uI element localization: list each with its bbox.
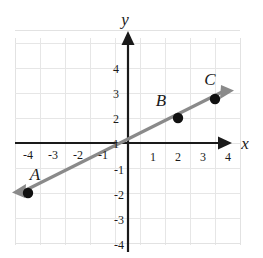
y-tick-label-4: 4 <box>113 62 119 76</box>
y-tick-label-3: 3 <box>113 87 119 101</box>
y-tick-label--1: -1 <box>114 163 124 177</box>
x-axis-arrowhead-icon <box>218 137 232 150</box>
x-tick-label--3: -3 <box>48 148 58 162</box>
x-tick-label-2: 2 <box>175 150 181 164</box>
y-tick-label--2: -2 <box>114 188 124 202</box>
x-tick-label--2: -2 <box>73 148 83 162</box>
point-a-label: A <box>29 165 41 184</box>
y-tick-label-1: 1 <box>113 137 119 151</box>
x-tick-label-1: 1 <box>150 150 156 164</box>
point-c-label: C <box>204 70 216 89</box>
x-tick-label-4: 4 <box>225 150 231 164</box>
y-axis-label: y <box>119 10 129 29</box>
x-tick-label--4: -4 <box>23 148 33 162</box>
axis-names-group: x y <box>119 10 249 153</box>
line-arrowhead-right-icon <box>220 85 234 99</box>
point-b-label: B <box>156 91 167 110</box>
data-line-group <box>12 85 234 198</box>
y-tick-label-2: 2 <box>113 112 119 126</box>
y-tick-labels-group: 4 3 2 1 -1 -2 -3 -4 <box>113 62 124 252</box>
x-tick-label--1: -1 <box>98 148 108 162</box>
point-c-marker <box>210 94 220 104</box>
x-tick-label-3: 3 <box>200 150 206 164</box>
point-b-marker <box>173 113 183 123</box>
graph-svg: A B C -4 -3 -2 -1 1 2 3 4 4 3 2 1 -1 -2 … <box>0 0 263 258</box>
coordinate-plane-figure: A B C -4 -3 -2 -1 1 2 3 4 4 3 2 1 -1 -2 … <box>0 0 263 258</box>
point-a-marker <box>23 188 33 198</box>
y-tick-label--4: -4 <box>114 238 124 252</box>
y-axis-arrowhead-icon <box>122 31 135 45</box>
x-axis-label: x <box>240 134 249 153</box>
y-tick-label--3: -3 <box>114 213 124 227</box>
